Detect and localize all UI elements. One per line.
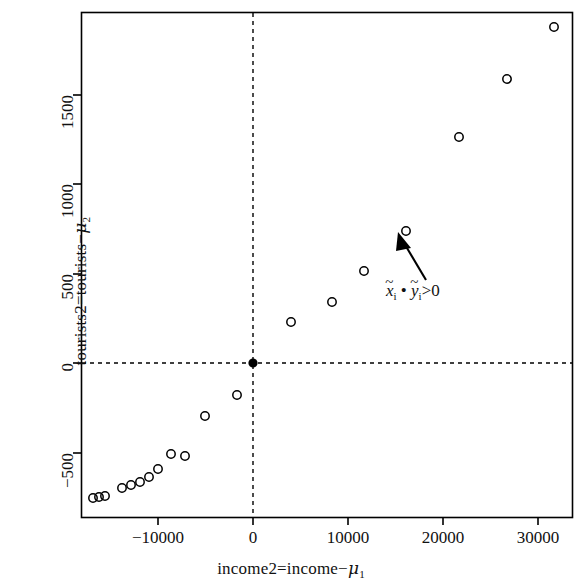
data-point — [154, 465, 162, 473]
tilde-x-icon: ~ — [385, 275, 394, 290]
x-tick-label: 20000 — [422, 528, 465, 548]
annotation-arrow — [396, 232, 426, 280]
annotation-x-symbol: ~x — [386, 281, 394, 301]
data-point — [233, 391, 241, 399]
data-point — [360, 267, 368, 275]
data-point — [118, 484, 126, 492]
x-tick-label: 30000 — [517, 528, 560, 548]
data-point — [503, 75, 511, 83]
annotation-dot-icon: • — [401, 281, 407, 300]
annotation-relation: >0 — [422, 281, 440, 300]
centroid-point — [248, 358, 257, 367]
data-point — [201, 412, 209, 420]
y-axis-title-sub: 2 — [80, 217, 92, 223]
data-point — [167, 450, 175, 458]
data-point — [145, 473, 153, 481]
data-point — [101, 492, 109, 500]
x-axis-title-minus: − — [338, 559, 348, 578]
y-axis-title-minus: − — [71, 234, 90, 244]
data-point — [455, 133, 463, 141]
data-point — [402, 227, 410, 235]
x-tick-label: 10000 — [327, 528, 370, 548]
annotation-label: ~xi • ~yi>0 — [386, 281, 440, 302]
data-point — [550, 23, 558, 31]
data-point — [287, 318, 295, 326]
x-axis-title-sub: 1 — [359, 568, 365, 580]
x-axis-title-lead: income2=income — [217, 559, 338, 578]
x-tick-label: −10000 — [132, 528, 184, 548]
tilde-y-icon: ~ — [410, 275, 419, 290]
annotation-y-symbol: ~y — [411, 281, 419, 301]
data-point — [136, 478, 144, 486]
data-point — [181, 452, 189, 460]
x-axis-title-mu: μ — [348, 558, 359, 578]
data-points — [89, 23, 558, 502]
y-axis-title-mu: μ — [70, 223, 90, 234]
data-point — [127, 481, 135, 489]
data-point — [328, 298, 336, 306]
annotation-x-sub: i — [394, 290, 397, 302]
scatter-plot-figure: −10000 0 10000 20000 30000 −500 0 500 10… — [0, 0, 582, 584]
y-axis-title-lead: tourists2=tourists — [71, 244, 90, 366]
y-axis-title: tourists2=tourists−μ2 — [70, 0, 92, 582]
plot-frame — [82, 13, 573, 518]
x-tick-label: 0 — [249, 528, 258, 548]
